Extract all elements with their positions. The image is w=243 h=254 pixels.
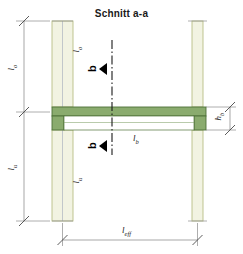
label-member-lu-base: l bbox=[71, 181, 81, 184]
label-member-lu-sub: u bbox=[76, 178, 83, 181]
left-dimension-chain bbox=[16, 16, 50, 226]
section-arrow-upper bbox=[99, 63, 107, 75]
lower-right-column bbox=[188, 130, 207, 221]
label-lower-column-dimension: lu bbox=[7, 160, 18, 176]
label-member-lo-base: l bbox=[71, 50, 81, 53]
label-upper-column-member: lo bbox=[72, 42, 83, 58]
drawing-canvas: Schnitt a-a bbox=[0, 0, 243, 254]
section-label-upper: b bbox=[87, 62, 98, 76]
label-lower-column-member: lu bbox=[72, 173, 83, 189]
label-lo-sub: o bbox=[11, 65, 18, 68]
label-lb-sub: b bbox=[136, 138, 139, 145]
section-arrow-lower bbox=[99, 140, 107, 152]
upper-left-column bbox=[52, 21, 73, 107]
section-label-lower: b bbox=[87, 139, 98, 153]
label-hb-base: h bbox=[213, 116, 223, 121]
beam-assembly bbox=[52, 107, 206, 130]
upper-right-column bbox=[188, 21, 207, 107]
label-beam-height: hb bbox=[214, 109, 225, 125]
label-hb-sub: b bbox=[218, 113, 225, 116]
label-beam-length: lb bbox=[133, 134, 139, 145]
label-member-lo-sub: o bbox=[76, 47, 83, 50]
label-effective-span: leff bbox=[122, 226, 131, 237]
label-leff-sub: eff bbox=[125, 230, 132, 237]
lower-left-column bbox=[52, 130, 73, 221]
label-lu-sub: u bbox=[11, 165, 18, 168]
label-lo-base: l bbox=[6, 68, 16, 71]
section-drawing-svg bbox=[0, 0, 243, 254]
label-upper-column-dimension: lo bbox=[7, 60, 18, 76]
label-lu-base: l bbox=[6, 168, 16, 171]
